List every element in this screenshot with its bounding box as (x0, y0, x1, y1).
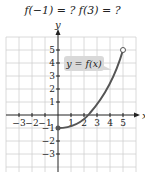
svg-text:4: 4 (49, 58, 55, 68)
svg-text:4: 4 (107, 118, 113, 128)
function-label: y = f(x) (64, 56, 112, 71)
svg-text:−2: −2 (25, 118, 38, 128)
svg-text:1: 1 (49, 97, 55, 107)
svg-text:y = f(x): y = f(x) (65, 58, 102, 69)
svg-text:5: 5 (49, 45, 55, 55)
closed-endpoint (56, 126, 61, 131)
svg-text:−1: −1 (42, 123, 55, 133)
graph: x y −3 −2 −1 1 2 3 4 5 5 4 3 2 1 −1 −2 −… (0, 0, 145, 175)
svg-text:3: 3 (49, 71, 55, 81)
svg-text:−3: −3 (12, 118, 26, 128)
svg-text:5: 5 (120, 118, 126, 128)
x-axis-arrow-icon (134, 113, 140, 118)
svg-text:3: 3 (94, 118, 100, 128)
svg-text:−2: −2 (42, 136, 55, 146)
svg-text:2: 2 (49, 84, 55, 94)
x-axis-label: x (142, 110, 145, 121)
y-axis-label: y (54, 19, 61, 30)
svg-text:−3: −3 (42, 149, 56, 159)
open-endpoint (121, 48, 126, 53)
